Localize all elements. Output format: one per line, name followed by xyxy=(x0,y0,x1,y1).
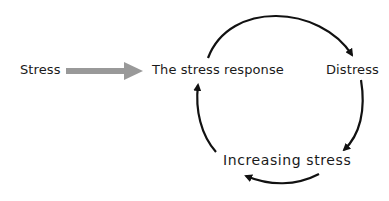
input-stress-label: Stress xyxy=(20,62,61,77)
arrow-increasing-to-response xyxy=(197,85,216,152)
arrow-increasing-bottom xyxy=(246,174,319,183)
input-arrow xyxy=(66,62,143,80)
node-distress: Distress xyxy=(326,62,379,77)
arrow-response-to-distress xyxy=(208,16,352,58)
arrow-distress-to-increasing xyxy=(344,80,363,150)
node-stress-response: The stress response xyxy=(152,62,284,77)
diagram-canvas xyxy=(0,0,389,201)
node-increasing-stress: Increasing stress xyxy=(223,152,351,168)
